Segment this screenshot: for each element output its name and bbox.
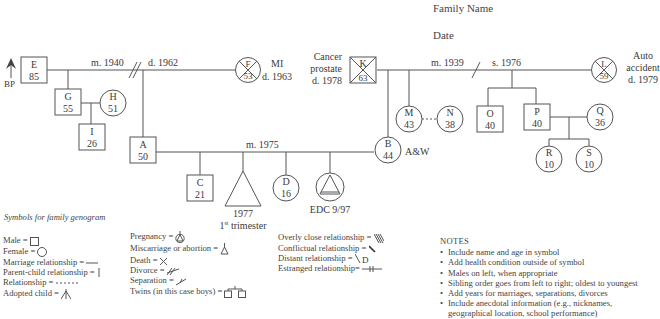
person-i[interactable]: I 26 <box>79 124 105 150</box>
legend-item-death: Death = <box>130 255 246 265</box>
person-q[interactable]: Q 36 <box>587 104 613 130</box>
person-n[interactable]: N 38 <box>437 106 463 132</box>
person-k[interactable]: K 63 <box>350 57 376 83</box>
person-a[interactable]: A 50 <box>130 137 156 163</box>
vline-icon <box>97 268 101 277</box>
dashed-line-icon <box>56 280 80 286</box>
legend-item-relationship: Relationship = <box>3 277 101 287</box>
svg-text:P: P <box>534 106 540 117</box>
distant-icon: D <box>355 254 371 263</box>
genogram-diagram: BP E 85 m. 1940 d. 1962 F 53 MI d. 1963 … <box>0 0 660 230</box>
person-m[interactable]: M 43 <box>396 106 422 132</box>
svg-text:53: 53 <box>244 71 254 81</box>
person-h[interactable]: H 51 <box>100 90 126 116</box>
estranged-icon <box>362 265 382 273</box>
legend-item-female: Female = <box>3 246 101 257</box>
legend-item-pregnancy: Pregnancy = <box>130 231 246 243</box>
hline-icon <box>86 259 98 267</box>
svg-text:G: G <box>64 91 71 102</box>
svg-text:O: O <box>486 108 493 119</box>
legend-item-adopted: Adopted child = <box>3 288 101 299</box>
svg-text:B: B <box>385 138 392 149</box>
svg-text:Q: Q <box>596 105 604 116</box>
svg-text:H: H <box>109 91 116 102</box>
person-b[interactable]: B 44 <box>375 137 401 163</box>
k-cause-line2: prostate <box>310 63 342 74</box>
circle-icon <box>37 247 47 257</box>
pregnancy-due-date: EDC 9/97 <box>310 204 350 215</box>
k-l-marriage-year: m. 1939 <box>431 57 464 68</box>
miscarriage-year: 1977 <box>233 208 253 219</box>
svg-text:I: I <box>90 126 93 137</box>
a-b-marriage-year: m. 1975 <box>246 139 279 150</box>
svg-text:40: 40 <box>532 118 542 129</box>
person-e[interactable]: E 85 <box>21 57 47 83</box>
svg-text:16: 16 <box>281 188 291 199</box>
person-g[interactable]: G 55 <box>55 89 81 115</box>
k-l-separation-year: s. 1976 <box>492 57 521 68</box>
person-c[interactable]: C 21 <box>187 175 213 201</box>
square-icon <box>30 237 39 246</box>
person-l[interactable]: L 59 <box>592 58 617 83</box>
svg-text:85: 85 <box>29 71 39 82</box>
legend-item-parent-child: Parent-child relationship = <box>3 267 101 278</box>
svg-text:R: R <box>546 147 553 158</box>
person-d[interactable]: D 16 <box>273 175 299 201</box>
legend-item-male: Male = <box>3 235 101 246</box>
overly-close-icon <box>374 234 384 243</box>
legend-item-divorce: Divorce = <box>130 265 246 275</box>
legend-item-estranged: Estranged relationship= <box>278 263 384 273</box>
person-p[interactable]: P 40 <box>524 104 550 130</box>
pregnancy-icon <box>316 173 344 201</box>
note-item: Sibling order goes from left to right; o… <box>440 278 638 288</box>
person-r[interactable]: R 10 <box>536 146 562 172</box>
miscarriage-icon <box>220 243 229 255</box>
b-note-alive-well: A&W <box>405 146 430 157</box>
svg-text:59: 59 <box>600 71 610 81</box>
svg-text:A: A <box>139 139 147 150</box>
legend-item-distant: Distant relationship = D <box>278 253 384 264</box>
pregnancy-symbol[interactable] <box>316 173 344 201</box>
note-item-continuation: geographical location, school performanc… <box>440 308 638 318</box>
svg-text:C: C <box>197 177 204 188</box>
person-s[interactable]: S 10 <box>576 146 602 172</box>
notes-list: Include name and age in symbol Add healt… <box>440 247 638 318</box>
person-o[interactable]: O 40 <box>477 106 503 132</box>
l-death-year: d. 1979 <box>628 74 658 85</box>
adopted-arrow-icon <box>6 58 16 78</box>
person-f[interactable]: F 53 <box>236 58 261 83</box>
svg-text:D: D <box>282 176 289 187</box>
svg-text:21: 21 <box>195 189 205 200</box>
notes-title: NOTES <box>440 236 638 246</box>
svg-text:44: 44 <box>383 150 393 161</box>
svg-text:40: 40 <box>485 120 495 131</box>
triangle-icon <box>225 171 261 206</box>
svg-text:55: 55 <box>63 103 73 114</box>
legend-item-marriage: Marriage relationship = <box>3 257 101 267</box>
svg-text:D: D <box>362 255 369 264</box>
svg-text:F: F <box>245 59 250 69</box>
note-item: Add health condition outside of symbol <box>440 257 638 267</box>
note-item: Include name and age in symbol <box>440 247 638 257</box>
conflictual-icon <box>369 245 377 253</box>
legend-item-overly-close: Overly close relationship = <box>278 232 384 243</box>
k-cause-line1: Cancer <box>314 51 343 62</box>
divorce-icon <box>167 267 179 275</box>
svg-text:E: E <box>31 59 37 70</box>
legend-column-3: Overly close relationship = Conflictual … <box>278 232 384 273</box>
x-icon <box>160 258 167 265</box>
svg-text:26: 26 <box>87 138 97 149</box>
l-cause-line1: Auto <box>633 50 653 61</box>
e-f-marriage-year: m. 1940 <box>91 57 124 68</box>
legend-column-2: Pregnancy = Miscarriage or abortion = De… <box>130 228 246 298</box>
e-f-divorce-year: d. 1962 <box>148 57 178 68</box>
legend-column-1: Male = Female = Marriage relationship = … <box>3 235 101 299</box>
miscarriage-symbol[interactable] <box>225 171 261 206</box>
svg-text:36: 36 <box>595 117 605 128</box>
legend-item-miscarriage: Miscarriage or abortion = <box>130 243 246 255</box>
svg-text:10: 10 <box>544 159 554 170</box>
pregnancy-icon <box>175 231 185 243</box>
twins-icon <box>224 286 246 298</box>
e-note-bp: BP <box>4 79 15 89</box>
